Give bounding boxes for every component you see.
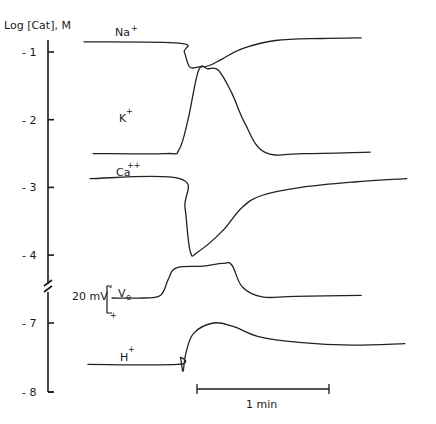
voltage-scale: 20 mV - + xyxy=(72,283,117,320)
svg-text:Na: Na xyxy=(115,26,130,39)
svg-text:+: + xyxy=(131,24,138,33)
y-tick-label: - 4 xyxy=(22,249,36,262)
voltage-scale-minus: - xyxy=(109,283,112,292)
svg-text:++: ++ xyxy=(127,161,140,170)
trace-label-na: Na + xyxy=(115,24,138,39)
trace-kplus xyxy=(93,66,370,155)
y-axis-title: Log [Cat], M xyxy=(4,19,71,32)
voltage-scale-label: 20 mV xyxy=(72,290,108,303)
trace-label-h: H + xyxy=(120,345,135,364)
time-scale-bar: 1 min xyxy=(197,384,329,411)
svg-text:e: e xyxy=(126,293,131,302)
trace-label-ve: V e xyxy=(118,287,131,302)
trace-hplus xyxy=(88,323,405,372)
svg-text:+: + xyxy=(126,107,133,116)
voltage-scale-plus: + xyxy=(110,311,117,320)
chart: Log [Cat], M - 1- 2- 3- 4- 7- 8 Na + K +… xyxy=(0,0,436,424)
trace-ve xyxy=(112,262,361,298)
y-axis xyxy=(44,40,53,392)
y-tick-label: - 2 xyxy=(22,114,36,127)
scale-bar-label: 1 min xyxy=(246,398,277,411)
axis-break-mark xyxy=(44,286,52,292)
y-tick-label: - 8 xyxy=(22,386,36,399)
svg-text:+: + xyxy=(128,345,135,354)
y-tick-label: - 3 xyxy=(22,181,36,194)
trace-caplusplus xyxy=(90,176,407,256)
y-tick-label: - 1 xyxy=(22,46,36,59)
y-tick-label: - 7 xyxy=(22,317,36,330)
trace-label-k: K + xyxy=(119,107,133,125)
trace-naplus xyxy=(84,38,361,68)
svg-text:V: V xyxy=(118,287,126,300)
